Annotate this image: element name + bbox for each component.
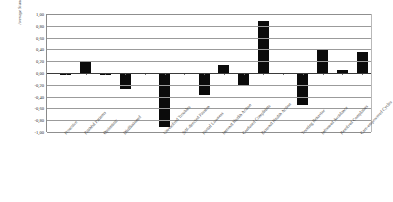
y-axis-tick-label: 0,40: [24, 47, 44, 52]
gridline: [47, 26, 371, 27]
gridline: [47, 38, 371, 39]
gridline: [47, 49, 371, 50]
y-axis-tick-label: 0,00: [24, 71, 44, 76]
y-axis-tick-label: 0,20: [24, 59, 44, 64]
gridline: [47, 61, 371, 62]
bar: [80, 61, 91, 73]
gridline: [47, 14, 371, 15]
y-axis-tick-label: -1,00: [24, 130, 44, 135]
y-axis-tick-labels: 1,000,800,600,400,200,00-0,20-0,40-0,60-…: [24, 14, 44, 132]
gridline: [47, 85, 371, 86]
bar: [120, 73, 131, 89]
y-axis-tick-label: -0,20: [24, 82, 44, 87]
gridline: [47, 97, 371, 98]
bar: [357, 52, 368, 73]
y-axis-tick-label: -0,40: [24, 94, 44, 99]
y-axis-tick-label: 0,60: [24, 35, 44, 40]
y-axis-tick-label: -0,60: [24, 106, 44, 111]
y-axis-tick-label: -0,80: [24, 118, 44, 123]
bar: [258, 21, 269, 73]
y-axis-tick-label: 1,00: [24, 12, 44, 17]
bar: [218, 65, 229, 73]
zero-line: [47, 73, 371, 74]
bar: [159, 73, 170, 127]
bar: [297, 73, 308, 105]
x-axis-tick-labels: ProactiveFaithful PatientsOptimisticDisi…: [46, 132, 372, 202]
y-axis-tick-label: 0,80: [24, 23, 44, 28]
